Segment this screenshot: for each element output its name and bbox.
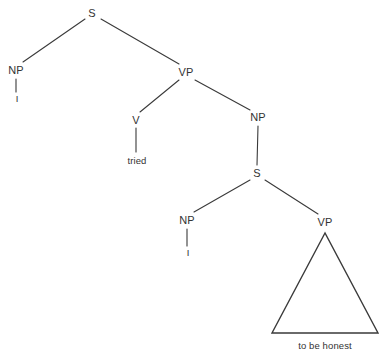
node-np-lower: NP [179,214,195,226]
tree-branch [140,80,179,112]
tree-branch [194,180,250,212]
phrase-triangle [272,233,378,333]
terminal-i-upper: I [16,93,19,104]
node-np-object: NP [250,111,266,123]
terminal-i-lower: I [187,247,190,258]
node-v-node: V [132,114,140,126]
syntax-tree-figure: SNPIVPVtriedNPSNPIVPto be honest [0,0,389,354]
terminal-to-be-honest: to be honest [298,340,352,351]
node-s-top: S [88,7,96,19]
tree-branch [257,126,258,165]
node-np-subject: NP [8,64,24,76]
terminal-tried: tried [128,155,147,166]
tree-branch [23,19,85,62]
node-vp-main: VP [178,66,193,78]
tree-branch-layer [0,0,389,354]
node-vp-lower: VP [317,216,332,228]
vp-triangle-shape [272,233,378,333]
tree-branch [101,19,179,64]
node-s-embedded: S [253,167,261,179]
tree-branch [195,80,250,110]
tree-branch [265,180,318,214]
tree-edges [16,19,318,246]
